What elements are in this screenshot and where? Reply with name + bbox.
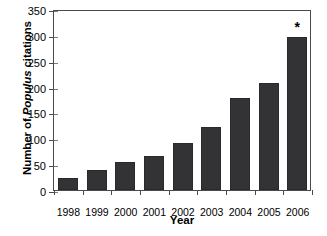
bar-group[interactable]: [83, 9, 112, 190]
bar[interactable]: [144, 156, 164, 190]
x-axis-tick: [283, 190, 284, 195]
bar-group[interactable]: [169, 9, 198, 190]
bar[interactable]: [115, 162, 135, 190]
x-axis-tick: [83, 190, 84, 195]
y-axis-tick-inner: [54, 114, 58, 115]
y-axis-tick-label: 200: [6, 83, 46, 95]
x-axis-title: Year: [53, 214, 311, 226]
y-axis-tick-inner: [54, 140, 58, 141]
y-axis-tick-label: 350: [6, 5, 46, 17]
bars-layer: *: [54, 11, 310, 190]
plot-inner: * 05010015020025030035019981999200020012…: [54, 11, 310, 190]
bar-group[interactable]: [226, 9, 255, 190]
bar-group[interactable]: *: [283, 9, 312, 190]
x-axis-tick: [169, 190, 170, 195]
bar[interactable]: [230, 98, 250, 190]
bar[interactable]: [259, 83, 279, 190]
y-axis-tick-inner: [54, 166, 58, 167]
plot-area: * 05010015020025030035019981999200020012…: [53, 10, 311, 191]
bar-group[interactable]: [54, 9, 83, 190]
asterisk-annotation: *: [287, 20, 307, 34]
x-axis-tick: [255, 190, 256, 195]
x-axis-tick: [140, 190, 141, 195]
bar[interactable]: [287, 37, 307, 190]
bar-chart-figure: Number of Populus citations * 0501001502…: [0, 0, 327, 236]
bar[interactable]: [201, 127, 221, 190]
y-axis-tick-label: 0: [6, 186, 46, 198]
x-axis-tick: [226, 190, 227, 195]
y-axis-tick-label: 250: [6, 57, 46, 69]
y-axis-tick-inner: [54, 89, 58, 90]
x-axis-tick: [54, 190, 55, 195]
bar-group[interactable]: [197, 9, 226, 190]
bar[interactable]: [58, 178, 78, 190]
bar-group[interactable]: [255, 9, 284, 190]
y-axis-tick-label: 100: [6, 134, 46, 146]
y-axis-tick-label: 150: [6, 108, 46, 120]
bar[interactable]: [87, 170, 107, 190]
y-axis-tick-label: 300: [6, 31, 46, 43]
bar-group[interactable]: [140, 9, 169, 190]
y-axis-tick-inner: [54, 11, 58, 12]
x-axis-tick: [197, 190, 198, 195]
y-axis-tick-inner: [54, 37, 58, 38]
x-axis-tick: [111, 190, 112, 195]
bar[interactable]: [173, 143, 193, 190]
y-axis-tick-inner: [54, 63, 58, 64]
x-axis-tick: [312, 190, 313, 195]
bar-group[interactable]: [111, 9, 140, 190]
y-axis-tick-label: 50: [6, 160, 46, 172]
